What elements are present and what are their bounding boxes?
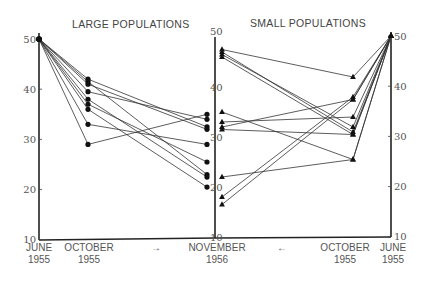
middle-y-tick: 10 <box>210 232 223 243</box>
circle-marker <box>85 89 90 94</box>
small-series-line <box>222 36 391 205</box>
x-label-june-1955-right: JUNE <box>380 242 406 253</box>
circle-marker <box>85 102 90 107</box>
left-y-tick: 20 <box>23 184 36 195</box>
small-series-line <box>222 36 391 127</box>
large-series-line <box>39 39 207 144</box>
x-label-october-1955-right: OCTOBER <box>320 242 369 253</box>
middle-y-tick: 50 <box>210 26 223 37</box>
small-series-line <box>222 36 391 77</box>
left-y-tick: 30 <box>23 134 36 145</box>
circle-marker <box>204 184 209 189</box>
x-label-june-1955-left: JUNE <box>26 242 52 253</box>
small-series-line <box>222 36 391 127</box>
triangle-marker <box>219 119 225 124</box>
right-y-tick: 40 <box>394 81 407 92</box>
circle-marker <box>204 117 209 122</box>
circle-marker <box>204 159 209 164</box>
circle-marker <box>85 107 90 112</box>
circle-marker <box>204 127 209 132</box>
population-chart: LARGE POPULATIONS SMALL POPULATIONS 1020… <box>0 0 427 283</box>
triangle-marker <box>219 201 225 206</box>
x-label-october-1955-left: OCTOBER <box>64 242 113 253</box>
large-series-line <box>39 39 207 119</box>
left-y-tick: 50 <box>23 34 36 45</box>
large-series-line <box>39 39 207 144</box>
large-series-line <box>39 39 207 162</box>
x-label-october-1955-left: 1955 <box>78 254 101 265</box>
x-label-june-1955-left: 1955 <box>28 254 51 265</box>
right-y-tick: 10 <box>394 231 407 242</box>
axes: 102030405010102020303040405050 <box>23 26 406 245</box>
circle-marker <box>85 122 90 127</box>
large-populations-title: LARGE POPULATIONS <box>72 18 190 30</box>
left-x-axis <box>39 238 215 240</box>
circle-marker <box>85 97 90 102</box>
middle-y-tick: 30 <box>210 132 223 143</box>
circle-marker <box>204 174 209 179</box>
x-label-november-1956: 1956 <box>206 254 229 265</box>
right-x-axis <box>215 237 391 238</box>
arrow-left-icon: ← <box>277 242 287 253</box>
right-y-tick: 20 <box>394 181 407 192</box>
x-label-june-1955-right: 1955 <box>382 254 405 265</box>
circle-marker <box>36 36 41 41</box>
left-y-tick: 40 <box>23 84 36 95</box>
middle-y-tick: 20 <box>210 182 223 193</box>
triangle-marker <box>219 194 225 199</box>
small-series-line <box>222 36 391 197</box>
triangle-marker <box>350 114 356 119</box>
right-y-tick: 30 <box>394 131 407 142</box>
large-series-line <box>39 39 207 129</box>
small-populations-title: SMALL POPULATIONS <box>250 17 366 29</box>
circle-marker <box>204 112 209 117</box>
middle-y-tick: 40 <box>210 82 223 93</box>
small-series-line <box>222 36 391 177</box>
x-label-november-1956: NOVEMBER <box>188 242 245 253</box>
circle-marker <box>204 142 209 147</box>
x-axis-labels: JUNE1955OCTOBER1955NOVEMBER1956OCTOBER19… <box>26 242 406 265</box>
circle-marker <box>85 142 90 147</box>
circle-marker <box>85 82 90 87</box>
x-label-october-1955-right: 1955 <box>334 254 357 265</box>
right-y-tick: 50 <box>394 31 407 42</box>
triangle-marker <box>219 109 225 114</box>
arrow-right-icon: → <box>151 242 161 253</box>
